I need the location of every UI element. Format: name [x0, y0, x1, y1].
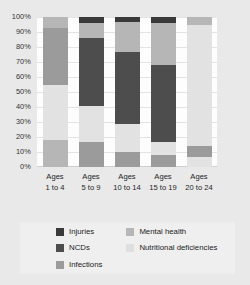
y-axis-tick-label: 50%	[16, 88, 31, 95]
bar-segment	[187, 157, 212, 168]
legend-item[interactable]: Nutritional deficiencies	[126, 242, 217, 255]
x-axis-label-line: Ages	[37, 172, 73, 183]
bar-segment	[79, 142, 104, 168]
legend-columns: InjuriesNCDsInfectionsMental healthNutri…	[56, 225, 217, 271]
bar-slot	[181, 17, 217, 167]
y-axis-tick-label: 30%	[16, 118, 31, 125]
x-axis-label-line: 1 to 4	[37, 183, 73, 194]
y-axis-tick-label: 90%	[16, 28, 31, 35]
legend-label: Injuries	[69, 228, 94, 236]
chart-legend: InjuriesNCDsInfectionsMental healthNutri…	[20, 222, 235, 274]
bar-segment	[79, 38, 104, 106]
bar-segment	[187, 146, 212, 157]
bar-segment	[151, 65, 176, 142]
x-axis-label-line: Ages	[73, 172, 109, 183]
bar-segment	[43, 140, 68, 167]
legend-swatch-icon	[56, 261, 64, 269]
x-axis-label-line: Ages	[181, 172, 217, 183]
legend-item[interactable]: Injuries	[56, 225, 102, 238]
x-axis-category-label: Ages15 to 19	[145, 172, 181, 193]
bar-slot	[73, 17, 109, 167]
y-axis-tick-label: 70%	[16, 58, 31, 65]
legend-label: Infections	[69, 261, 102, 269]
y-axis-tick-label: 0%	[20, 163, 31, 170]
legend-label: Nutritional deficiencies	[139, 244, 217, 252]
bar-segment	[115, 22, 140, 52]
legend-label: NCDs	[69, 244, 90, 252]
x-axis-category-label: Ages10 to 14	[109, 172, 145, 193]
y-axis-tick-label: 60%	[16, 73, 31, 80]
bar-group	[37, 17, 217, 167]
bar-slot	[145, 17, 181, 167]
plot-area-wrapper	[37, 17, 217, 167]
legend-item[interactable]: Mental health	[126, 225, 217, 238]
bar-segment	[187, 25, 212, 72]
stacked-bar[interactable]	[151, 17, 176, 167]
y-axis-tick-label: 100%	[12, 13, 31, 20]
x-axis-label-line: Ages	[109, 172, 145, 183]
x-axis-label-line: 5 to 9	[73, 183, 109, 194]
bar-segment	[43, 85, 68, 141]
bar-segment	[43, 17, 68, 28]
x-axis-category-label: Ages5 to 9	[73, 172, 109, 193]
x-axis-label-line: 10 to 14	[109, 183, 145, 194]
stacked-bar-chart: 0%10%20%30%40%50%60%70%80%90%100% Ages1 …	[0, 0, 250, 285]
y-axis-tick-label: 20%	[16, 133, 31, 140]
bar-segment	[115, 124, 140, 153]
x-axis-label-line: 15 to 19	[145, 183, 181, 194]
x-axis-label-line: Ages	[145, 172, 181, 183]
x-axis-label-line: 20 to 24	[181, 183, 217, 194]
x-axis-category-label: Ages20 to 24	[181, 172, 217, 193]
stacked-bar[interactable]	[187, 17, 212, 167]
bar-slot	[37, 17, 73, 167]
legend-swatch-icon	[56, 228, 64, 236]
legend-column: InjuriesNCDsInfections	[56, 225, 102, 271]
legend-label: Mental health	[139, 228, 186, 236]
legend-swatch-icon	[126, 228, 134, 236]
bar-segment	[187, 17, 212, 25]
bar-slot	[109, 17, 145, 167]
legend-swatch-icon	[126, 244, 134, 252]
y-axis-tick-label: 10%	[16, 148, 31, 155]
bar-segment	[151, 142, 176, 156]
stacked-bar[interactable]	[79, 17, 104, 167]
y-axis-tick-label: 80%	[16, 43, 31, 50]
bar-segment	[187, 71, 212, 146]
stacked-bar[interactable]	[115, 17, 140, 167]
y-axis: 0%10%20%30%40%50%60%70%80%90%100%	[0, 17, 35, 167]
x-axis: Ages1 to 4Ages5 to 9Ages10 to 14Ages15 t…	[37, 172, 217, 193]
legend-item[interactable]: NCDs	[56, 242, 102, 255]
bar-segment	[79, 23, 104, 38]
x-axis-category-label: Ages1 to 4	[37, 172, 73, 193]
legend-swatch-icon	[56, 244, 64, 252]
legend-column: Mental healthNutritional deficiencies	[126, 225, 217, 271]
bar-segment	[151, 23, 176, 65]
bar-segment	[115, 52, 140, 124]
bar-segment	[79, 106, 104, 142]
bar-segment	[115, 152, 140, 167]
stacked-bar[interactable]	[43, 17, 68, 167]
legend-item[interactable]: Infections	[56, 258, 102, 271]
y-axis-tick-label: 40%	[16, 103, 31, 110]
bar-segment	[43, 28, 68, 85]
bar-segment	[151, 155, 176, 167]
